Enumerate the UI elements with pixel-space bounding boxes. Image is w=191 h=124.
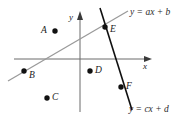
point-label-A: A: [41, 26, 47, 36]
geometry-figure: y x A B C D E F y = ax + b y = cx + d: [0, 0, 191, 124]
point-B: [21, 68, 26, 73]
y-axis: [77, 11, 83, 112]
point-E: [102, 24, 107, 29]
point-F: [118, 84, 123, 89]
point-label-E: E: [110, 25, 116, 35]
equation-label-descending: y = cx + d: [129, 105, 169, 115]
point-label-B: B: [29, 71, 35, 81]
x-axis: [14, 56, 152, 62]
x-axis-label: x: [143, 62, 147, 71]
equation-label-ascending: y = ax + b: [130, 8, 170, 18]
point-label-D: D: [95, 66, 102, 76]
point-A: [52, 28, 57, 33]
point-label-F: F: [126, 82, 132, 92]
point-C: [44, 95, 49, 100]
point-label-C: C: [52, 93, 58, 103]
y-axis-arrow: [77, 11, 83, 20]
point-D: [87, 68, 92, 73]
y-axis-label: y: [69, 13, 73, 22]
